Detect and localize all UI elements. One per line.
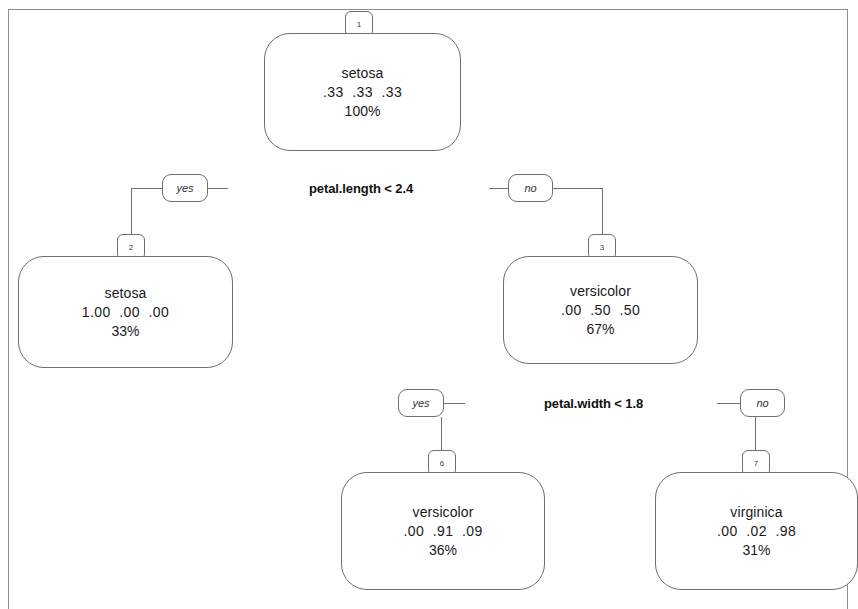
split-1-yes-box[interactable]: yes: [162, 174, 208, 202]
node-badge-label: 6: [440, 459, 444, 468]
split-1-no-box[interactable]: no: [508, 174, 553, 202]
node-percent: 36%: [429, 541, 457, 560]
split-1-no-label: no: [524, 182, 536, 194]
node-class-label: virginica: [730, 503, 782, 522]
node-percent: 31%: [742, 541, 770, 560]
split-1-condition-text: petal.length < 2.4: [309, 181, 413, 196]
node-badge-label: 3: [600, 243, 604, 252]
node-probabilities: .33 .33 .33: [323, 83, 402, 102]
split-2-condition-text: petal.width < 1.8: [544, 396, 643, 411]
node-percent: 33%: [111, 322, 139, 341]
node-probabilities: .00 .50 .50: [561, 301, 640, 320]
node-class-label: versicolor: [413, 503, 474, 522]
node-badge-label: 1: [357, 20, 361, 29]
node-probabilities: 1.00 .00 .00: [82, 303, 169, 322]
node-class-label: setosa: [105, 284, 147, 303]
split-2-condition: petal.width < 1.8: [544, 396, 643, 411]
node-badge-label: 2: [129, 243, 133, 252]
split-2-yes-label: yes: [412, 397, 429, 409]
split-2-yes-box[interactable]: yes: [398, 389, 444, 417]
split-2-no-label: no: [756, 397, 768, 409]
node-badge-label: 7: [754, 459, 758, 468]
tree-node-3[interactable]: versicolor .00 .50 .50 67%: [503, 256, 698, 364]
tree-node-6[interactable]: versicolor .00 .91 .09 36%: [341, 472, 545, 590]
tree-node-2[interactable]: setosa 1.00 .00 .00 33%: [18, 256, 233, 368]
node-class-label: versicolor: [570, 282, 631, 301]
split-2-no-box[interactable]: no: [740, 389, 785, 417]
node-probabilities: .00 .91 .09: [403, 522, 482, 541]
node-percent: 100%: [345, 102, 381, 121]
tree-node-1[interactable]: setosa .33 .33 .33 100%: [264, 33, 461, 151]
node-class-label: setosa: [342, 64, 384, 83]
split-1-yes-label: yes: [176, 182, 193, 194]
tree-node-7[interactable]: virginica .00 .02 .98 31%: [655, 472, 858, 590]
node-probabilities: .00 .02 .98: [717, 522, 796, 541]
split-1-condition: petal.length < 2.4: [309, 181, 413, 196]
node-percent: 67%: [586, 320, 614, 339]
